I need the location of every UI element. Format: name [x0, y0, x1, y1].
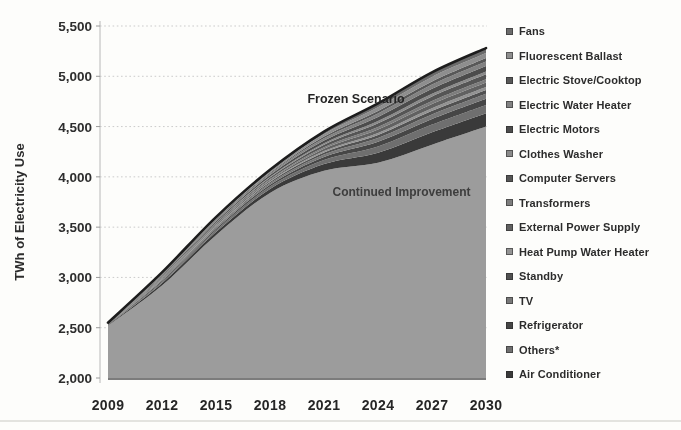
legend-item: Electric Water Heater [506, 93, 649, 118]
legend-marker-icon [506, 28, 513, 35]
legend-marker-icon [506, 126, 513, 133]
legend-item: Heat Pump Water Heater [506, 240, 649, 265]
legend-marker-icon [506, 175, 513, 182]
x-tick-label: 2024 [362, 397, 395, 413]
legend-item: Transformers [506, 191, 649, 216]
legend-item: Fluorescent Ballast [506, 44, 649, 69]
y-tick-label: 2,000 [58, 371, 92, 386]
x-tick-label: 2015 [200, 397, 233, 413]
legend-label: Air Conditioner [519, 368, 601, 380]
legend-label: Electric Motors [519, 123, 600, 135]
legend-marker-icon [506, 77, 513, 84]
legend-item: Air Conditioner [506, 362, 649, 387]
legend-marker-icon [506, 322, 513, 329]
legend-item: Standby [506, 264, 649, 289]
legend-item: Fans [506, 19, 649, 44]
legend-label: External Power Supply [519, 221, 640, 233]
legend-label: Fans [519, 25, 545, 37]
y-tick-label: 5,000 [58, 69, 92, 84]
legend-marker-icon [506, 101, 513, 108]
legend-item: Refrigerator [506, 313, 649, 338]
annotation-frozen-scenario: Frozen Scenario [281, 92, 431, 106]
y-tick-label: 3,000 [58, 270, 92, 285]
y-tick-label: 4,500 [58, 120, 92, 135]
legend-label: Refrigerator [519, 319, 583, 331]
y-tick-label: 5,500 [58, 19, 92, 34]
legend-label: Others* [519, 344, 559, 356]
legend-marker-icon [506, 297, 513, 304]
legend-label: Heat Pump Water Heater [519, 246, 649, 258]
legend-item: Electric Stove/Cooktop [506, 68, 649, 93]
legend-marker-icon [506, 199, 513, 206]
legend-item: External Power Supply [506, 215, 649, 240]
legend-label: Computer Servers [519, 172, 616, 184]
legend-item: Clothes Washer [506, 142, 649, 167]
legend-label: Clothes Washer [519, 148, 603, 160]
y-tick-label: 4,000 [58, 170, 92, 185]
legend-label: Transformers [519, 197, 591, 209]
legend: FansFluorescent BallastElectric Stove/Co… [506, 19, 649, 387]
scan-artifact-line [0, 420, 681, 422]
legend-marker-icon [506, 224, 513, 231]
legend-item: Others* [506, 338, 649, 363]
legend-marker-icon [506, 150, 513, 157]
legend-marker-icon [506, 52, 513, 59]
legend-marker-icon [506, 248, 513, 255]
x-tick-label: 2012 [146, 397, 179, 413]
y-tick-label: 2,500 [58, 321, 92, 336]
legend-marker-icon [506, 346, 513, 353]
chart-figure: 5,5005,0004,5004,0003,5003,0002,5002,000… [0, 0, 681, 430]
legend-label: Electric Stove/Cooktop [519, 74, 642, 86]
x-tick-label: 2030 [470, 397, 503, 413]
legend-label: TV [519, 295, 533, 307]
legend-item: TV [506, 289, 649, 314]
legend-label: Standby [519, 270, 563, 282]
legend-item: Electric Motors [506, 117, 649, 142]
annotation-continued-improvement: Continued Improvement [329, 185, 474, 199]
legend-marker-icon [506, 273, 513, 280]
x-tick-label: 2018 [254, 397, 287, 413]
y-tick-label: 3,500 [58, 220, 92, 235]
x-tick-label: 2021 [308, 397, 341, 413]
x-tick-label: 2009 [92, 397, 125, 413]
legend-marker-icon [506, 371, 513, 378]
y-axis-title: TWh of Electricity Use [12, 127, 28, 297]
legend-label: Electric Water Heater [519, 99, 631, 111]
legend-item: Computer Servers [506, 166, 649, 191]
legend-label: Fluorescent Ballast [519, 50, 622, 62]
x-tick-label: 2027 [416, 397, 449, 413]
